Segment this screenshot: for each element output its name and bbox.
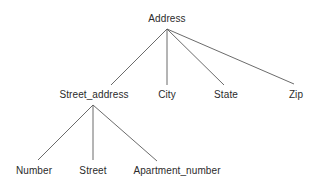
- tree-node-number: Number: [16, 165, 52, 177]
- tree-node-street_address: Street_address: [59, 89, 128, 101]
- tree-node-street: Street: [79, 165, 106, 177]
- tree-node-city: City: [158, 89, 176, 101]
- attribute-hierarchy-diagram: AddressStreet_addressCityStateZipNumberS…: [0, 0, 319, 192]
- tree-node-apartment_number: Apartment_number: [133, 165, 220, 177]
- tree-edge-address-to-street_address: [111, 29, 167, 85]
- tree-node-zip: Zip: [289, 89, 303, 101]
- tree-edge-street_address-to-number: [38, 105, 93, 160]
- tree-edge-street_address-to-apartment_number: [93, 105, 157, 161]
- tree-node-address: Address: [148, 13, 185, 25]
- tree-node-state: State: [214, 89, 238, 101]
- tree-edge-address-to-zip: [167, 29, 294, 84]
- tree-edge-address-to-state: [167, 29, 224, 85]
